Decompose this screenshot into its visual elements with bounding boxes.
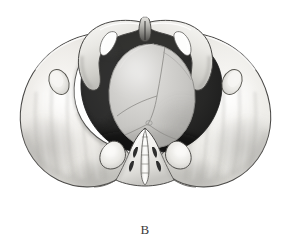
figure-label: B: [0, 222, 290, 238]
pelvis-fetal-head-illustration: [0, 0, 290, 247]
figure-container: B: [0, 0, 290, 247]
pubic-symphysis: [139, 17, 151, 42]
